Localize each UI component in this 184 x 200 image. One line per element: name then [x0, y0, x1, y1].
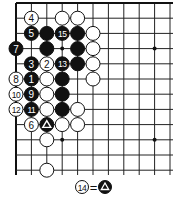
- white-stone: 2: [40, 57, 54, 71]
- black-stone-icon: [55, 87, 69, 101]
- black-stone: [71, 26, 85, 40]
- black-stone-icon: [55, 102, 69, 116]
- black-stone: 15: [55, 26, 69, 40]
- white-stone: [55, 11, 69, 25]
- black-stone-icon: [71, 57, 85, 71]
- white-stone-icon: [40, 163, 54, 177]
- white-stone: [71, 118, 85, 132]
- black-stone-icon: [71, 26, 85, 40]
- move-number: 15: [58, 29, 67, 39]
- white-stone-icon: [40, 72, 54, 86]
- white-stone: 4: [24, 11, 38, 25]
- diagram-caption: 14 =: [0, 178, 184, 198]
- move-number: 13: [58, 59, 67, 69]
- move-number: 7: [13, 44, 19, 55]
- move-number: 1: [29, 74, 35, 85]
- black-stone: [55, 102, 69, 116]
- white-stone-icon: [71, 102, 85, 116]
- white-stone-icon: [71, 118, 85, 132]
- black-stone: [40, 26, 54, 40]
- star-point: [153, 138, 157, 142]
- white-stone-icon: [40, 102, 54, 116]
- white-stone-icon: [55, 11, 69, 25]
- white-stone-icon: [40, 133, 54, 147]
- white-stone: [55, 118, 69, 132]
- star-point: [153, 47, 157, 51]
- white-stone-icon: [86, 57, 100, 71]
- white-stone: [40, 72, 54, 86]
- black-stone: 7: [9, 42, 23, 56]
- caption-move-stone: 14: [76, 181, 89, 194]
- white-stone: [40, 163, 54, 177]
- black-stone: 9: [24, 87, 38, 101]
- move-number: 12: [12, 105, 21, 115]
- black-stone: [55, 87, 69, 101]
- black-stone: 11: [24, 102, 38, 116]
- move-number: 3: [29, 59, 35, 70]
- white-stone: 8: [9, 72, 23, 86]
- black-stone: 1: [24, 72, 38, 86]
- white-stone: [71, 102, 85, 116]
- black-stone: 13: [55, 57, 69, 71]
- white-stone-icon: [40, 87, 54, 101]
- black-stone-icon: [40, 26, 54, 40]
- move-number: 2: [44, 59, 50, 70]
- black-stone: [71, 42, 85, 56]
- move-number: 6: [29, 120, 35, 131]
- star-point: [60, 138, 64, 142]
- black-stone: 5: [24, 26, 38, 40]
- move-number: 11: [27, 105, 36, 115]
- white-stone-icon: [71, 11, 85, 25]
- white-stone: [86, 57, 100, 71]
- white-stone-icon: [86, 42, 100, 56]
- black-stone-icon: [40, 42, 54, 56]
- white-stone: [40, 102, 54, 116]
- black-stone: [40, 42, 54, 56]
- star-point: [60, 47, 64, 51]
- black-stone: [40, 118, 54, 132]
- white-stone: 6: [24, 118, 38, 132]
- move-number: 8: [13, 74, 19, 85]
- white-stone: [86, 42, 100, 56]
- move-number: 5: [29, 28, 35, 39]
- caption-move-label: 14: [78, 183, 87, 193]
- white-stone: [71, 11, 85, 25]
- black-stone: [55, 72, 69, 86]
- black-stone-icon: [71, 42, 85, 56]
- move-number: 9: [29, 89, 35, 100]
- black-stone: 3: [24, 57, 38, 71]
- black-stone-icon: [55, 72, 69, 86]
- white-stone-icon: [55, 118, 69, 132]
- caption-equals: =: [90, 180, 98, 195]
- black-stone: [71, 57, 85, 71]
- white-stone-icon: [86, 72, 100, 86]
- go-board: 4515732138110912116: [0, 0, 184, 180]
- white-stone: 12: [9, 102, 23, 116]
- move-number: 10: [12, 90, 21, 100]
- white-stone: [40, 87, 54, 101]
- white-stone: [86, 26, 100, 40]
- caption-target-stone: [99, 181, 112, 194]
- move-number: 4: [29, 13, 35, 24]
- white-stone: [86, 72, 100, 86]
- white-stone-icon: [86, 26, 100, 40]
- white-stone: 10: [9, 87, 23, 101]
- white-stone: [40, 133, 54, 147]
